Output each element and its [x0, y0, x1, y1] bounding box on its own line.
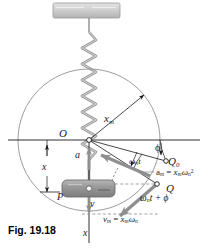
point-Q-marker [155, 182, 160, 187]
label-block-P: P [57, 192, 63, 202]
label-phi: ϕ [155, 143, 160, 153]
label-xm-sub: m [109, 118, 114, 125]
label-wtp-omega: ω [140, 193, 147, 203]
label-vm-eq: = [113, 214, 118, 224]
label-x-axis: x [83, 228, 87, 238]
label-block-acceleration: a [75, 150, 80, 160]
xm-radius-arrow [89, 95, 144, 140]
label-vm-equation: vm = xmωn [103, 215, 138, 225]
label-am-omega-sup: 2 [191, 168, 194, 174]
label-xm: xm [104, 113, 114, 125]
ceiling-support-icon [53, 3, 120, 18]
label-am-equation: am = xmωn2 [156, 168, 194, 178]
figure-caption: Fig. 19.18 [8, 224, 56, 236]
origin-point-marker [87, 138, 92, 143]
label-origin: O [59, 128, 67, 139]
label-wtp-tail: t + ϕ [150, 193, 169, 203]
label-wnt-t: t [138, 156, 141, 166]
label-displacement-x: x [42, 162, 46, 172]
label-am-eq: = [166, 167, 171, 177]
mass-block-icon [62, 180, 115, 197]
radius-to-Q [89, 140, 157, 184]
figure-19-18: O xm ϕ Q0 ωnt am = xmωn2 Q ωnt + ϕ vm = … [0, 0, 214, 250]
label-total-phase: ωnt + ϕ [140, 194, 168, 204]
total-phase-arc [112, 168, 118, 182]
label-am-sub: m [160, 171, 164, 177]
acceleration-vector-am [101, 155, 150, 176]
label-omega-n-t: ωnt [129, 157, 141, 167]
label-vm-sub: m [107, 218, 111, 224]
label-Q0-base: Q [168, 155, 176, 167]
label-vm-omega-sub: n [135, 218, 138, 224]
label-block-velocity: v [90, 199, 94, 209]
